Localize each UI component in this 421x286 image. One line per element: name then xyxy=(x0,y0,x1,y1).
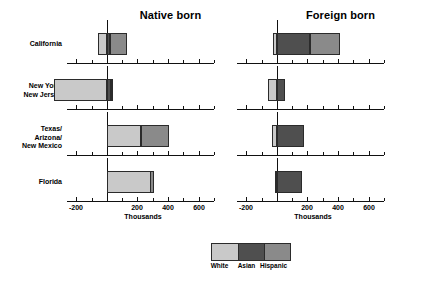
category-label: California xyxy=(0,33,62,49)
x-axis-minor-tick xyxy=(183,198,184,201)
x-axis-major-tick xyxy=(338,59,339,63)
x-axis-major-tick xyxy=(168,105,169,109)
x-axis-minor-tick xyxy=(262,60,263,63)
x-axis-major-tick xyxy=(338,151,339,155)
x-axis-major-tick xyxy=(76,105,77,109)
x-axis-minor-tick xyxy=(323,198,324,201)
x-axis-major-tick xyxy=(369,197,370,201)
x-axis-line xyxy=(67,201,214,202)
x-axis-line xyxy=(67,155,214,156)
x-axis-minor-tick xyxy=(353,60,354,63)
bar-segment xyxy=(98,33,107,55)
x-axis-major-tick xyxy=(199,105,200,109)
bar-segment xyxy=(277,33,310,55)
legend-label: White xyxy=(206,262,233,269)
category-label-row: California xyxy=(0,33,62,55)
x-axis-minor-tick xyxy=(92,198,93,201)
category-label: Texas/Arizona/New Mexico xyxy=(0,125,62,151)
x-tick-label: 600 xyxy=(363,204,375,211)
bar-segment xyxy=(277,79,285,101)
x-axis-major-tick xyxy=(246,105,247,109)
category-label: New York/New Jersey xyxy=(0,79,62,99)
x-axis-minor-tick xyxy=(323,152,324,155)
x-tick-label: 200 xyxy=(301,204,313,211)
x-axis-minor-tick xyxy=(153,198,154,201)
x-axis-minor-tick xyxy=(122,152,123,155)
bar-segment xyxy=(107,125,141,147)
x-tick-label: 400 xyxy=(332,204,344,211)
category-label-row: New York/New Jersey xyxy=(0,79,62,101)
bar-segment xyxy=(107,171,151,193)
x-axis-minor-tick xyxy=(214,106,215,109)
x-axis-major-tick xyxy=(76,59,77,63)
x-axis-minor-tick xyxy=(353,106,354,109)
bar-segment xyxy=(310,33,340,55)
category-label-row: Florida xyxy=(0,171,62,193)
x-axis-minor-tick xyxy=(262,152,263,155)
bar-segment xyxy=(277,171,302,193)
x-axis-minor-tick xyxy=(323,60,324,63)
bar-segment xyxy=(54,79,107,101)
x-axis-major-tick xyxy=(246,151,247,155)
chart-canvas: Native born Foreign born CaliforniaNew Y… xyxy=(0,0,421,286)
x-axis-minor-tick xyxy=(292,198,293,201)
legend-swatch xyxy=(212,244,238,260)
category-label: Florida xyxy=(0,171,62,187)
x-axis-major-tick xyxy=(369,59,370,63)
x-axis-line xyxy=(237,155,384,156)
x-axis-caption: Thousands xyxy=(294,213,331,220)
x-axis-minor-tick xyxy=(262,198,263,201)
x-axis-minor-tick xyxy=(122,106,123,109)
x-axis-line xyxy=(237,63,384,64)
x-axis-caption: Thousands xyxy=(124,213,161,220)
x-axis-major-tick xyxy=(307,105,308,109)
panel-title-foreign-born: Foreign born xyxy=(288,9,393,21)
x-axis-major-tick xyxy=(137,59,138,63)
x-axis-minor-tick xyxy=(262,106,263,109)
x-axis-minor-tick xyxy=(122,60,123,63)
x-axis-major-tick xyxy=(137,105,138,109)
x-axis-minor-tick xyxy=(92,152,93,155)
x-axis-major-tick xyxy=(307,151,308,155)
x-axis-minor-tick xyxy=(153,152,154,155)
x-axis-major-tick xyxy=(168,151,169,155)
x-axis-minor-tick xyxy=(323,106,324,109)
bar-segment xyxy=(141,125,169,147)
x-axis-major-tick xyxy=(246,59,247,63)
x-axis-major-tick xyxy=(76,151,77,155)
x-axis-minor-tick xyxy=(92,106,93,109)
x-axis-minor-tick xyxy=(214,60,215,63)
x-axis-minor-tick xyxy=(353,152,354,155)
category-label-row: Texas/Arizona/New Mexico xyxy=(0,125,62,147)
x-axis-major-tick xyxy=(307,59,308,63)
legend-label: Hispanic xyxy=(260,262,287,269)
x-axis-major-tick xyxy=(76,197,77,201)
x-axis-line xyxy=(237,109,384,110)
bar-segment xyxy=(111,79,113,101)
x-axis-major-tick xyxy=(369,151,370,155)
x-axis-major-tick xyxy=(168,59,169,63)
x-axis-major-tick xyxy=(338,197,339,201)
x-axis-major-tick xyxy=(246,197,247,201)
x-axis-major-tick xyxy=(369,105,370,109)
x-axis-major-tick xyxy=(199,197,200,201)
x-axis-minor-tick xyxy=(384,106,385,109)
bar-segment xyxy=(277,125,304,147)
x-axis-minor-tick xyxy=(153,60,154,63)
x-axis-minor-tick xyxy=(183,152,184,155)
bar-segment xyxy=(110,33,127,55)
x-axis-minor-tick xyxy=(153,106,154,109)
x-axis-line xyxy=(67,63,214,64)
x-tick-label: 600 xyxy=(193,204,205,211)
bar-segment xyxy=(150,171,154,193)
x-axis-minor-tick xyxy=(183,106,184,109)
x-tick-label: -200 xyxy=(239,204,253,211)
x-axis-major-tick xyxy=(137,151,138,155)
x-axis-minor-tick xyxy=(92,60,93,63)
legend-swatch xyxy=(264,244,290,260)
panel-title-native-born: Native born xyxy=(118,9,223,21)
x-tick-label: 200 xyxy=(131,204,143,211)
x-tick-label: -200 xyxy=(69,204,83,211)
legend-labels: WhiteAsianHispanic xyxy=(206,262,287,269)
x-axis-minor-tick xyxy=(183,60,184,63)
